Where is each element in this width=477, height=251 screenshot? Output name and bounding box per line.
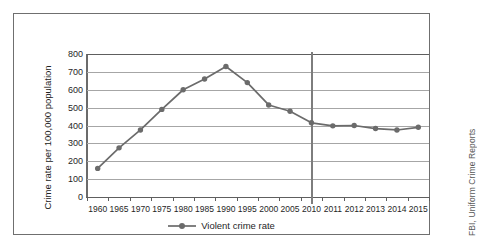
figure-frame: Crime rate per 100,000 population 010020… [13, 13, 430, 235]
y-axis-title: Crime rate per 100,000 population [42, 58, 53, 218]
line-marker-icon [168, 221, 196, 231]
y-tick-label: 700 [68, 67, 83, 77]
x-tick-label: 2014 [387, 204, 406, 214]
violent-crime-rate-series [87, 54, 429, 197]
x-tick-label: 2005 [281, 204, 300, 214]
x-tick-label: 1960 [88, 204, 107, 214]
x-tick-label: 1980 [174, 204, 193, 214]
x-tick-label: 2013 [366, 204, 385, 214]
x-tick-label: 1965 [110, 204, 129, 214]
x-tick [408, 197, 409, 201]
x-tick-label: 2011 [324, 204, 342, 214]
y-tick-label: 200 [68, 156, 83, 166]
x-tick [365, 197, 366, 201]
x-tick-label: 2000 [259, 204, 278, 214]
x-tick [279, 197, 280, 201]
y-tick-label: 500 [68, 103, 83, 113]
x-tick [258, 197, 259, 201]
x-tick-label: 1995 [238, 204, 257, 214]
x-tick-label: 2012 [345, 204, 364, 214]
x-tick [301, 197, 302, 201]
x-tick [237, 197, 238, 201]
x-tick-label: 1990 [216, 204, 235, 214]
source-credit: FBI, Uniform Crime Reports [467, 86, 477, 236]
x-tick [386, 197, 387, 201]
chart-legend: Violent crime rate [14, 220, 429, 231]
x-tick [322, 197, 323, 201]
x-tick-label: 1970 [131, 204, 150, 214]
y-tick-label: 600 [68, 85, 83, 95]
x-tick-label: 1975 [152, 204, 171, 214]
y-tick-label: 300 [68, 138, 83, 148]
x-tick [344, 197, 345, 201]
x-tick [87, 197, 88, 201]
y-tick-label: 800 [68, 49, 83, 59]
y-tick-label: 100 [68, 174, 83, 184]
x-tick-label: 1985 [195, 204, 214, 214]
x-tick [130, 197, 131, 201]
x-tick [429, 197, 430, 201]
y-tick-label: 400 [68, 121, 83, 131]
plot-area: 0100200300400500600700800 19601965197019… [87, 54, 429, 197]
x-tick-label: 2010 [302, 204, 321, 214]
legend-item-label: Violent crime rate [201, 220, 275, 231]
x-tick [173, 197, 174, 201]
x-tick [215, 197, 216, 201]
y-tick-label: 0 [78, 192, 83, 202]
x-tick-label: 2015 [409, 204, 428, 214]
x-tick [151, 197, 152, 201]
x-tick [194, 197, 195, 201]
x-tick [108, 197, 109, 201]
